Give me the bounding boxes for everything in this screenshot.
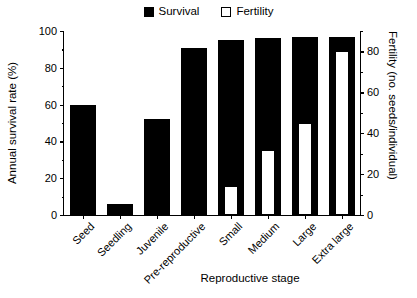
right-tick-label-40: 40 [367, 127, 379, 139]
left-minor-tick-70 [62, 86, 65, 87]
x-category-label-6: Large [290, 220, 318, 248]
bar-fertility-7 [335, 51, 349, 215]
open-square-icon [221, 7, 231, 17]
right-tick-label-0: 0 [367, 209, 373, 221]
x-tick-2 [157, 215, 158, 219]
left-tick-label-100: 100 [39, 25, 57, 37]
filled-square-icon [144, 7, 154, 17]
bar-survival-0 [70, 105, 96, 215]
x-category-label-0: Seed [69, 220, 96, 247]
x-tick-1 [120, 215, 121, 219]
left-tick-60 [60, 105, 64, 106]
left-minor-tick-10 [62, 197, 65, 198]
left-tick-20 [60, 178, 64, 179]
x-category-label-1: Seedling [94, 220, 133, 259]
right-minor-tick-30 [360, 154, 363, 155]
left-tick-label-60: 60 [45, 99, 57, 111]
left-tick-label-20: 20 [45, 172, 57, 184]
right-minor-tick-70 [360, 72, 363, 73]
right-tick-0 [360, 215, 364, 216]
bottom-axis-line [63, 215, 361, 216]
bar-fertility-5 [261, 150, 275, 215]
right-tick-80 [360, 51, 364, 52]
right-tick-label-20: 20 [367, 168, 379, 180]
x-category-label-2: Juvenile [133, 220, 170, 257]
right-tick-label-60: 60 [367, 86, 379, 98]
left-tick-0 [60, 215, 64, 216]
plot-area: 020406080100 020406080 [64, 31, 360, 215]
left-minor-tick-30 [62, 160, 65, 161]
right-axis-line [360, 31, 361, 215]
x-tick-5 [268, 215, 269, 219]
left-tick-100 [60, 31, 64, 32]
left-minor-tick-50 [62, 123, 65, 124]
right-minor-tick-50 [360, 113, 363, 114]
x-tick-0 [83, 215, 84, 219]
x-tick-4 [231, 215, 232, 219]
x-tick-3 [194, 215, 195, 219]
left-axis-title: Annual survival rate (%) [4, 31, 20, 215]
left-tick-40 [60, 141, 64, 142]
right-minor-tick-90 [360, 31, 363, 32]
right-tick-40 [360, 133, 364, 134]
chart-legend: Survival Fertility [0, 6, 417, 18]
right-tick-60 [360, 92, 364, 93]
x-tick-7 [342, 215, 343, 219]
legend-label-survival: Survival [159, 6, 200, 18]
left-tick-label-0: 0 [51, 209, 57, 221]
left-tick-label-80: 80 [45, 62, 57, 74]
right-tick-label-80: 80 [367, 45, 379, 57]
left-minor-tick-90 [62, 49, 65, 50]
left-tick-80 [60, 68, 64, 69]
bar-survival-2 [144, 119, 170, 215]
right-tick-20 [360, 174, 364, 175]
right-axis-title: Fertility (no. seeds/individual) [385, 31, 401, 231]
right-minor-tick-10 [360, 195, 363, 196]
x-axis-title: Reproductive stage [150, 272, 350, 284]
bar-fertility-4 [224, 186, 238, 215]
legend-label-fertility: Fertility [236, 6, 273, 18]
bar-fertility-6 [298, 123, 312, 215]
figure-bar-chart: Survival Fertility 020406080100 02040608… [0, 0, 417, 298]
bar-survival-3 [181, 48, 207, 215]
left-tick-label-40: 40 [45, 135, 57, 147]
x-category-label-4: Small [216, 220, 244, 248]
legend-entry-survival: Survival [144, 6, 200, 18]
bar-survival-1 [107, 204, 133, 215]
x-category-label-5: Medium [245, 220, 281, 256]
x-tick-6 [305, 215, 306, 219]
legend-entry-fertility: Fertility [221, 6, 273, 18]
